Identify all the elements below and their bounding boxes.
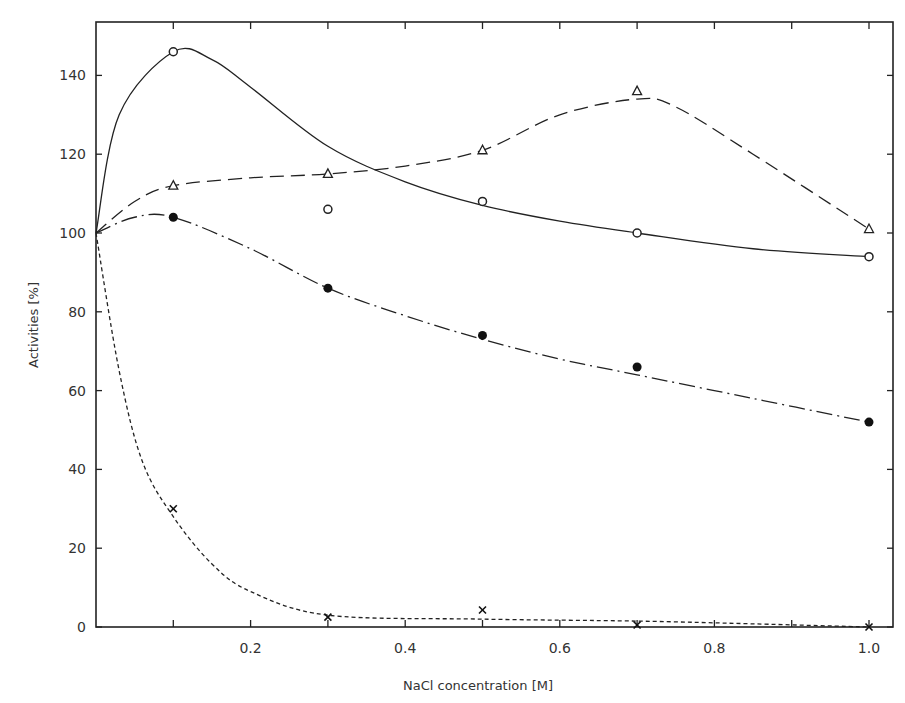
y-axis-title: Activities [%] xyxy=(26,282,41,368)
x-tick-label: 0.2 xyxy=(239,640,261,656)
open-circle-marker xyxy=(169,48,177,56)
plot-frame xyxy=(96,22,893,627)
y-tick-label: 80 xyxy=(68,304,86,320)
triangle-marker xyxy=(633,86,642,95)
open-circle-marker xyxy=(633,229,641,237)
cross-marker xyxy=(170,505,177,512)
axis-ticks xyxy=(96,22,893,627)
data-markers xyxy=(169,48,874,631)
y-tick-label: 20 xyxy=(68,540,86,556)
y-tick-label: 100 xyxy=(59,225,86,241)
y-tick-label: 60 xyxy=(68,383,86,399)
x-tick-label: 0.8 xyxy=(703,640,725,656)
curve-cross xyxy=(96,233,869,627)
filled-circle-marker xyxy=(478,331,487,340)
filled-circle-marker xyxy=(865,418,874,427)
filled-circle-marker xyxy=(323,284,332,293)
cross-marker xyxy=(479,607,486,614)
chart: 0.20.40.60.81.0020406080100120140 NaCl c… xyxy=(0,0,905,703)
x-tick-label: 0.4 xyxy=(394,640,416,656)
filled-circle-marker xyxy=(169,213,178,222)
y-tick-label: 140 xyxy=(59,67,86,83)
y-tick-label: 120 xyxy=(59,146,86,162)
x-tick-label: 1.0 xyxy=(858,640,880,656)
triangle-marker xyxy=(323,169,332,178)
axis-tick-labels: 0.20.40.60.81.0020406080100120140 xyxy=(59,67,880,656)
open-circle-marker xyxy=(865,253,873,261)
curve-open-triangle xyxy=(96,98,869,233)
open-circle-marker xyxy=(479,197,487,205)
open-circle-marker xyxy=(324,205,332,213)
triangle-marker xyxy=(865,224,874,233)
x-tick-label: 0.6 xyxy=(549,640,571,656)
cross-marker xyxy=(324,614,331,621)
curve-filled-circle xyxy=(96,214,869,422)
y-tick-label: 0 xyxy=(77,619,86,635)
y-tick-label: 40 xyxy=(68,461,86,477)
filled-circle-marker xyxy=(633,362,642,371)
x-axis-title: NaCl concentration [M] xyxy=(403,678,553,693)
